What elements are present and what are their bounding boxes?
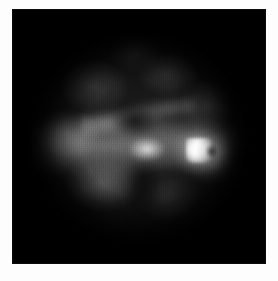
fov-vignette: [27, 26, 251, 250]
left-gray-mass-feature: [40, 116, 98, 170]
medical-image-panel[interactable]: [12, 9, 266, 264]
nucleus-notch-feature: [206, 145, 217, 158]
screenshot-canvas: [0, 0, 278, 281]
secondary-bright-patch-feature: [130, 138, 164, 160]
central-fissure-feature: [126, 165, 162, 223]
image-caption: [0, 0, 1, 1]
upper-ridge-feature: [79, 93, 198, 138]
bright-halo-feature: [175, 127, 233, 176]
lower-left-gray-mass-feature: [67, 160, 143, 209]
dark-pocket-feature: [112, 107, 157, 136]
horizontal-tissue-band-feature: [31, 111, 246, 178]
circular-field-of-view: [27, 26, 251, 250]
parenchyma-mottling-layer: [27, 26, 251, 250]
image-title: [0, 0, 1, 1]
bright-nucleus-feature: [186, 138, 212, 163]
